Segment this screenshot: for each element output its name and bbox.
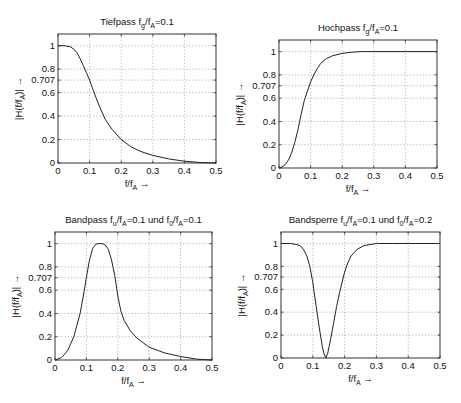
x-tick-label: 0.2 — [115, 165, 128, 176]
x-tick-label: 0.4 — [178, 165, 191, 176]
grid — [279, 40, 437, 168]
x-axis-label: f/fA → — [125, 178, 150, 191]
axes-box — [279, 40, 437, 168]
x-tick-label: 0.2 — [111, 362, 124, 373]
y-tick-label: 0 — [50, 157, 55, 168]
y-tick-label: 0.6 — [39, 284, 52, 295]
x-tick-label: 0.2 — [336, 170, 349, 181]
axes-box — [281, 232, 440, 358]
y-tick-label: 1 — [50, 40, 55, 51]
x-tick-label: 0 — [278, 360, 283, 371]
y-tick-label: 0.6 — [265, 284, 278, 295]
x-tick-label: 0.1 — [306, 360, 319, 371]
grid — [58, 34, 216, 163]
y-tick-label: 0.707 — [28, 272, 52, 283]
axes-box — [55, 232, 212, 360]
magnitude-curve — [58, 46, 216, 163]
x-tick-label: 0.5 — [430, 170, 443, 181]
grid — [281, 232, 440, 358]
x-tick-label: 0.5 — [205, 362, 218, 373]
y-tick-label: 0.4 — [263, 116, 276, 127]
y-axis-label: |H(f/fA)| → — [13, 77, 26, 120]
subplot-title: Bandsperre fu/fA=0.1 und f0/fA=0.2 — [289, 214, 432, 227]
y-tick-label: 0.2 — [265, 329, 278, 340]
y-tick-label: 0.8 — [265, 261, 278, 272]
subplot-title: Bandpass fu/fA=0.1 und f0/fA=0.1 — [65, 214, 202, 227]
y-tick-label: 0 — [47, 354, 52, 365]
x-tick-label: 0.1 — [80, 362, 93, 373]
y-tick-label: 0.8 — [263, 69, 276, 80]
y-tick-label: 1 — [47, 238, 52, 249]
y-tick-label: 0.6 — [42, 87, 55, 98]
y-tick-label: 0.4 — [39, 308, 52, 319]
subplot-tiefpass: 00.10.20.30.40.500.20.40.60.7070.81Tiefp… — [13, 16, 223, 191]
y-tick-label: 0.6 — [263, 92, 276, 103]
figure: 00.10.20.30.40.500.20.40.60.7070.81Tiefp… — [0, 0, 461, 403]
y-tick-label: 0.8 — [42, 63, 55, 74]
y-tick-label: 0 — [271, 162, 276, 173]
x-tick-label: 0.2 — [338, 360, 351, 371]
axes-box — [58, 34, 216, 163]
x-tick-label: 0.3 — [143, 362, 156, 373]
x-tick-label: 0 — [52, 362, 57, 373]
y-tick-label: 0.8 — [39, 261, 52, 272]
subplot-title: Hochpass fg/fA=0.1 — [318, 22, 398, 36]
subplot-hochpass: 00.10.20.30.40.500.20.40.60.7070.81Hochp… — [234, 22, 444, 196]
y-axis-label: |H(f/fA)| → — [236, 274, 249, 317]
x-tick-label: 0.4 — [174, 362, 187, 373]
y-tick-label: 0.707 — [254, 271, 278, 282]
x-tick-label: 0.1 — [304, 170, 317, 181]
x-tick-label: 0 — [276, 170, 281, 181]
y-axis-label: |H(f/fA)| → — [234, 83, 247, 126]
subplot-bandpass: 00.10.20.30.40.500.20.40.60.7070.81Bandp… — [10, 214, 219, 388]
grid — [55, 232, 212, 360]
magnitude-curve — [279, 52, 437, 168]
y-axis-label: |H(f/fA)| → — [10, 275, 23, 318]
subplot-title: Tiefpass fg/fA=0.1 — [100, 16, 173, 30]
x-tick-label: 0.4 — [402, 360, 415, 371]
y-tick-label: 0.4 — [265, 306, 278, 317]
y-tick-label: 0.707 — [31, 74, 55, 85]
y-tick-label: 0.707 — [252, 80, 276, 91]
x-tick-label: 0.3 — [367, 170, 380, 181]
x-tick-label: 0.5 — [209, 165, 222, 176]
x-tick-label: 0 — [55, 165, 60, 176]
x-tick-label: 0.3 — [146, 165, 159, 176]
x-tick-label: 0.5 — [433, 360, 446, 371]
x-axis-label: f/fA → — [346, 183, 371, 196]
subplot-bandsperre: 00.10.20.30.40.500.20.40.60.7070.81Bands… — [236, 214, 447, 386]
y-tick-label: 0 — [273, 352, 278, 363]
x-tick-label: 0.3 — [370, 360, 383, 371]
x-tick-label: 0.4 — [399, 170, 412, 181]
y-tick-label: 0.2 — [263, 139, 276, 150]
x-axis-label: f/fA → — [121, 375, 146, 388]
y-tick-label: 0.2 — [42, 134, 55, 145]
y-tick-label: 0.4 — [42, 110, 55, 121]
magnitude-curve — [55, 244, 212, 360]
y-tick-label: 1 — [273, 238, 278, 249]
y-tick-label: 0.2 — [39, 331, 52, 342]
y-tick-label: 1 — [271, 46, 276, 57]
magnitude-curve — [281, 244, 440, 359]
x-axis-label: f/fA → — [348, 373, 373, 386]
x-tick-label: 0.1 — [83, 165, 96, 176]
